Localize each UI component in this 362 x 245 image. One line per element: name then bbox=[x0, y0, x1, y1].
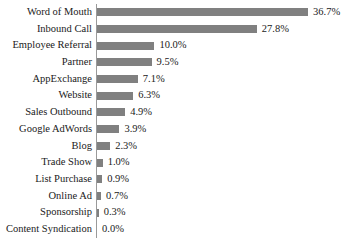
bar-row: Website6.3% bbox=[0, 87, 362, 104]
bar-row: Google AdWords3.9% bbox=[0, 121, 362, 138]
bar-and-label: 36.7% bbox=[97, 4, 340, 21]
bar bbox=[97, 8, 308, 16]
data-label: 4.9% bbox=[125, 104, 152, 121]
bar-row: Online Ad0.7% bbox=[0, 188, 362, 205]
data-label: 0.0% bbox=[97, 221, 124, 238]
category-label: Google AdWords bbox=[0, 121, 92, 138]
category-label: Website bbox=[0, 87, 92, 104]
bar-and-label: 0.0% bbox=[97, 221, 124, 238]
bar-row: Trade Show1.0% bbox=[0, 154, 362, 171]
category-label: Blog bbox=[0, 138, 92, 155]
category-label: Employee Referral bbox=[0, 37, 92, 54]
category-label: Partner bbox=[0, 54, 92, 71]
bar bbox=[97, 58, 152, 66]
bar-and-label: 3.9% bbox=[97, 121, 146, 138]
bar bbox=[97, 108, 125, 116]
bar-and-label: 1.0% bbox=[97, 154, 130, 171]
category-label: Sponsorship bbox=[0, 204, 92, 221]
data-label: 0.7% bbox=[101, 188, 128, 205]
bar-and-label: 0.3% bbox=[97, 204, 126, 221]
bar bbox=[97, 125, 119, 133]
bar-row: Sales Outbound4.9% bbox=[0, 104, 362, 121]
bar bbox=[97, 142, 110, 150]
bar bbox=[97, 25, 257, 33]
category-label: Inbound Call bbox=[0, 21, 92, 38]
data-label: 1.0% bbox=[103, 154, 130, 171]
category-label: Trade Show bbox=[0, 154, 92, 171]
bar-and-label: 9.5% bbox=[97, 54, 178, 71]
category-label: List Purchase bbox=[0, 171, 92, 188]
bar-and-label: 0.7% bbox=[97, 188, 128, 205]
bar-rows: Word of Mouth36.7%Inbound Call27.8%Emplo… bbox=[0, 4, 362, 238]
bar-and-label: 0.9% bbox=[97, 171, 129, 188]
plot-area: Word of Mouth36.7%Inbound Call27.8%Emplo… bbox=[0, 0, 362, 245]
bar-row: Inbound Call27.8% bbox=[0, 21, 362, 38]
data-label: 0.3% bbox=[99, 204, 126, 221]
data-label: 36.7% bbox=[308, 4, 340, 21]
category-label: Sales Outbound bbox=[0, 104, 92, 121]
bar-and-label: 2.3% bbox=[97, 138, 137, 155]
data-label: 6.3% bbox=[133, 87, 160, 104]
bar bbox=[97, 42, 154, 50]
bar bbox=[97, 92, 133, 100]
bar-and-label: 27.8% bbox=[97, 21, 289, 38]
category-label: Online Ad bbox=[0, 188, 92, 205]
bar-row: Sponsorship0.3% bbox=[0, 204, 362, 221]
bar-row: Partner9.5% bbox=[0, 54, 362, 71]
data-label: 0.9% bbox=[102, 171, 129, 188]
category-label: Content Syndication bbox=[0, 221, 92, 238]
bar-chart: Word of Mouth36.7%Inbound Call27.8%Emplo… bbox=[0, 0, 362, 245]
bar-row: Employee Referral10.0% bbox=[0, 37, 362, 54]
data-label: 2.3% bbox=[110, 138, 137, 155]
data-label: 27.8% bbox=[257, 21, 289, 38]
category-label: AppExchange bbox=[0, 71, 92, 88]
bar-and-label: 7.1% bbox=[97, 71, 165, 88]
bar-row: AppExchange7.1% bbox=[0, 71, 362, 88]
bar-row: List Purchase0.9% bbox=[0, 171, 362, 188]
bar-row: Content Syndication0.0% bbox=[0, 221, 362, 238]
data-label: 9.5% bbox=[152, 54, 179, 71]
bar bbox=[97, 75, 138, 83]
bar-and-label: 10.0% bbox=[97, 37, 187, 54]
bar-row: Blog2.3% bbox=[0, 138, 362, 155]
data-label: 7.1% bbox=[138, 71, 165, 88]
category-label: Word of Mouth bbox=[0, 4, 92, 21]
data-label: 3.9% bbox=[119, 121, 146, 138]
bar-and-label: 4.9% bbox=[97, 104, 152, 121]
bar-and-label: 6.3% bbox=[97, 87, 160, 104]
data-label: 10.0% bbox=[154, 37, 186, 54]
bar-row: Word of Mouth36.7% bbox=[0, 4, 362, 21]
